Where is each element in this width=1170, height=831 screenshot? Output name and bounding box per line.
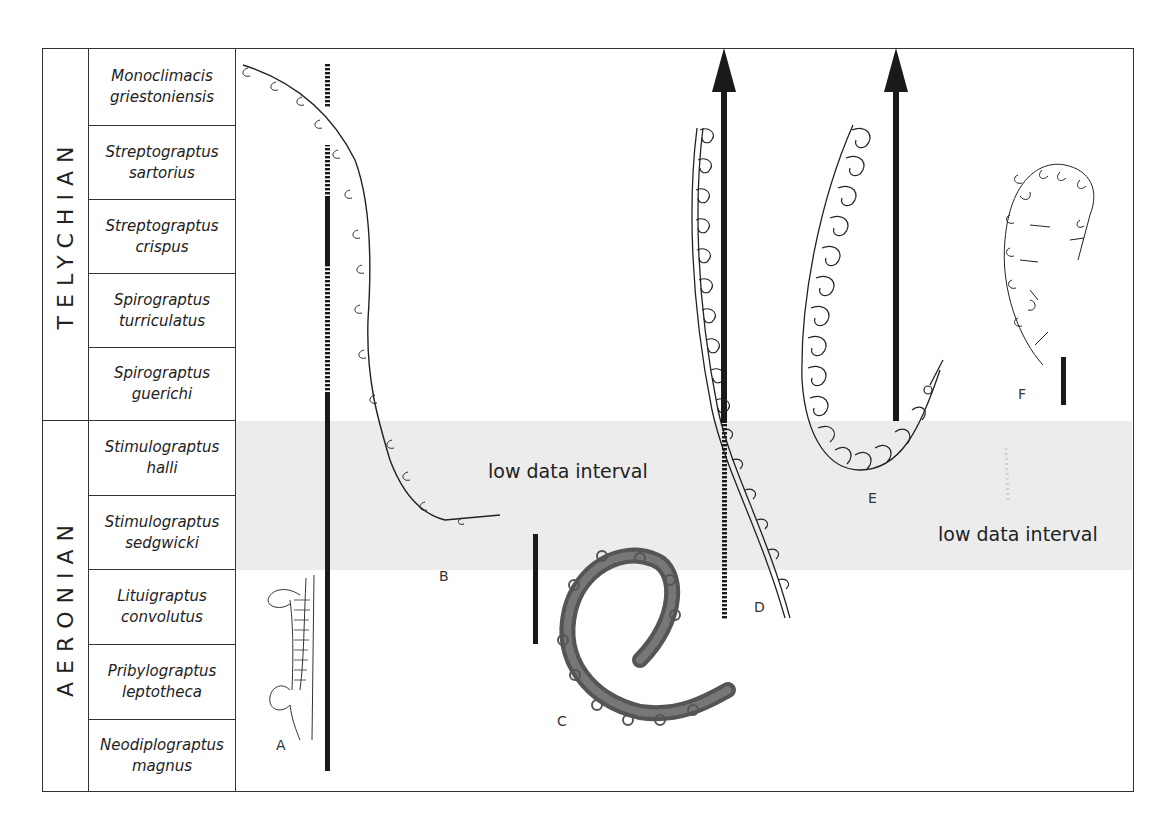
specimen-c-drawing	[558, 551, 728, 725]
range-arrow-2	[884, 48, 908, 421]
specimen-f-drawing	[1004, 164, 1094, 365]
specimen-label-c: C	[557, 713, 567, 729]
range-bar-1	[325, 64, 330, 771]
scale-bar-c	[533, 534, 538, 644]
specimen-label-b: B	[439, 568, 449, 584]
range-arrow-1	[712, 48, 736, 619]
scale-bar-f	[1061, 357, 1066, 405]
specimen-label-d: D	[754, 599, 765, 615]
specimen-a-drawing	[268, 575, 314, 740]
specimen-e-drawing	[802, 125, 943, 470]
specimen-label-a: A	[276, 737, 286, 753]
low-data-interval-label-2: low data interval	[938, 523, 1098, 545]
specimen-label-e: E	[868, 490, 877, 506]
specimen-d-drawing	[692, 128, 790, 618]
low-data-interval-label-1: low data interval	[488, 460, 648, 482]
specimen-label-f: F	[1018, 386, 1026, 402]
faint-trace	[1006, 448, 1008, 500]
specimen-drawings	[0, 0, 1170, 831]
specimen-b-drawing	[243, 65, 500, 524]
